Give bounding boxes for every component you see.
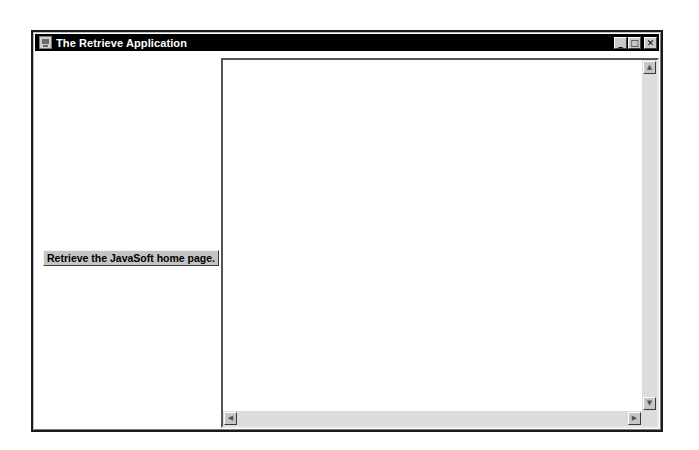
title-bar[interactable]: The Retrieve Application _ □ ✕	[35, 34, 659, 51]
close-button[interactable]: ✕	[644, 37, 657, 49]
left-pane: Retrieve the JavaSoft home page.	[35, 51, 223, 428]
window-title: The Retrieve Application	[56, 37, 187, 49]
text-area[interactable]: ▲ ▼ ◀ ▶	[221, 58, 659, 428]
vertical-scrollbar[interactable]: ▲ ▼	[642, 60, 657, 411]
retrieve-button[interactable]: Retrieve the JavaSoft home page.	[43, 250, 219, 266]
minimize-button[interactable]: _	[614, 37, 627, 49]
horizontal-scrollbar[interactable]: ◀ ▶	[223, 411, 642, 426]
text-content[interactable]	[223, 60, 642, 411]
scrollbar-corner	[642, 411, 657, 426]
scroll-down-button[interactable]: ▼	[643, 397, 656, 410]
app-window: The Retrieve Application _ □ ✕ Retrieve …	[31, 30, 663, 432]
window-controls: _ □ ✕	[614, 37, 657, 49]
java-app-icon[interactable]	[39, 36, 52, 49]
scroll-right-button[interactable]: ▶	[628, 412, 641, 425]
scroll-left-button[interactable]: ◀	[224, 412, 237, 425]
scroll-up-button[interactable]: ▲	[643, 61, 656, 74]
maximize-button[interactable]: □	[628, 37, 641, 49]
